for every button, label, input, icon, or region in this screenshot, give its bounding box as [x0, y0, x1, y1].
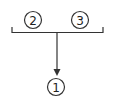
node-1: 1 [48, 79, 65, 96]
arrow-head-icon [54, 69, 61, 76]
merge-bracket [12, 27, 103, 33]
node-1-label: 1 [52, 81, 60, 95]
node-3-label: 3 [76, 14, 84, 28]
node-2: 2 [25, 12, 42, 29]
node-3: 3 [72, 12, 89, 29]
node-2-label: 2 [29, 14, 37, 28]
diagram-canvas: 2 3 1 [0, 0, 113, 103]
